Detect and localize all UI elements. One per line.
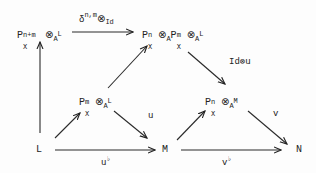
node-sub: X <box>211 109 215 119</box>
arrows-layer <box>0 0 316 173</box>
label-u: u <box>148 112 153 121</box>
node-sub: X <box>23 42 27 52</box>
label-id-otimes-u: Id⊗u <box>229 58 251 67</box>
node-sub: X <box>148 42 152 52</box>
arrow-midright-to-N <box>248 111 287 144</box>
node-tail: L <box>199 30 203 38</box>
node-tail: M <box>234 97 238 105</box>
otimes-symbol: ⊗ <box>187 29 195 40</box>
flat-icon: ♭ <box>106 155 110 163</box>
commutative-diagram: Pn+mX⊗AL PnX⊗APmX⊗AL PmX⊗AL PnX⊗AM L M N… <box>0 0 316 173</box>
node-tail: L <box>58 30 62 38</box>
arrow-midleft-to-M <box>114 111 147 138</box>
node-ring: A <box>53 35 57 43</box>
node-mid-right: PnX⊗AM <box>205 97 238 108</box>
arrow-M-to-midright <box>177 111 205 140</box>
node-tail: L <box>108 97 112 105</box>
arrow-L-to-midleft <box>55 113 80 138</box>
arrow-midleft-to-topright <box>108 46 147 88</box>
node-sup: m <box>177 30 181 40</box>
node-ring: A <box>103 102 107 110</box>
node-sup: n <box>211 97 215 107</box>
node-sup: n <box>148 30 152 40</box>
label-v-flat: v♭ <box>222 159 232 168</box>
flat-icon: ♭ <box>227 155 231 163</box>
node-ring: A <box>229 102 233 110</box>
node-top-right: PnX⊗APmX⊗AL <box>142 30 203 41</box>
node-M: M <box>162 145 168 155</box>
node-sub: X <box>177 42 181 52</box>
node-top-left: Pn+mX⊗AL <box>17 30 62 41</box>
node-mid-left: PmX⊗AL <box>79 97 112 108</box>
node-ring: A <box>166 35 170 43</box>
node-sup: m <box>85 97 89 107</box>
arrow-topright-to-midright <box>188 52 225 84</box>
label-id: Id <box>105 18 113 26</box>
label-u-flat: u♭ <box>101 159 111 168</box>
node-sub: X <box>85 109 89 119</box>
label-delta-otimes-id: δn,m⊗Id <box>79 14 114 25</box>
node-L: L <box>36 145 42 155</box>
label-sup: n,m <box>84 11 97 19</box>
node-sup: n+m <box>23 30 36 40</box>
node-N: N <box>296 145 302 155</box>
label-v: v <box>273 110 278 119</box>
